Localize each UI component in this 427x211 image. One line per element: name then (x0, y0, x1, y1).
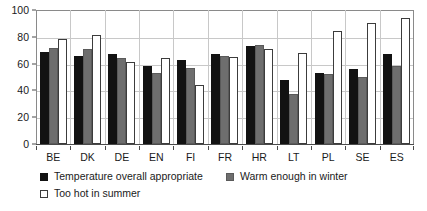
bar-group-en (139, 10, 173, 144)
bar-pl-series-0 (315, 73, 324, 144)
legend: Temperature overall appropriate Warm eno… (36, 168, 416, 202)
bar-pl-series-1 (324, 74, 333, 144)
gray-square-swatch-icon (226, 173, 234, 181)
x-tick-mark (36, 146, 37, 150)
bar-es-series-2 (401, 18, 410, 144)
bar-group-es (380, 10, 414, 144)
bar-group-de (105, 10, 139, 144)
bar-group-be (36, 10, 70, 144)
bar-group-fr (208, 10, 242, 144)
bar-hr-series-0 (246, 46, 255, 144)
bar-dk-series-1 (83, 49, 92, 144)
bar-es-series-1 (392, 66, 401, 144)
bar-en-series-0 (143, 66, 152, 144)
legend-item-warm-enough-in-winter: Warm enough in winter (226, 171, 348, 182)
x-tick-label-be: BE (36, 146, 70, 163)
x-tick-mark (242, 146, 243, 150)
bar-se-series-2 (367, 23, 376, 144)
bar-se-series-1 (358, 77, 367, 144)
x-axis-labels: BEDKDEENFIFRHRLTPLSEES (36, 146, 414, 163)
bar-fi-series-2 (195, 85, 204, 144)
x-tick-label-se: SE (345, 146, 379, 163)
bar-group-lt (277, 10, 311, 144)
bar-lt-series-2 (298, 53, 307, 144)
x-tick-label-hr: HR (242, 146, 276, 163)
bar-group-hr (242, 10, 276, 144)
bar-hr-series-1 (255, 45, 264, 144)
x-tick-mark (105, 146, 106, 150)
x-tick-mark (173, 146, 174, 150)
bar-lt-series-0 (280, 80, 289, 144)
bar-fr-series-2 (229, 57, 238, 144)
x-tick-mark (208, 146, 209, 150)
x-tick-label-text: HR (252, 151, 267, 163)
y-tick-label: 60 (17, 58, 29, 69)
x-tick-label-text: FR (218, 151, 232, 163)
x-tick-label-text: PL (322, 151, 335, 163)
x-tick-label-text: DK (80, 151, 95, 163)
x-tick-label-text: FI (186, 151, 195, 163)
bar-chart: 020406080100 BEDKDEENFIFRHRLTPLSEES Temp… (0, 0, 427, 211)
black-square-swatch-icon (40, 173, 48, 181)
legend-label: Temperature overall appropriate (54, 171, 203, 182)
legend-item-too-hot-in-summer: Too hot in summer (40, 188, 226, 199)
x-tick-label-text: LT (288, 151, 299, 163)
x-axis-line (36, 144, 414, 145)
x-tick-mark (277, 146, 278, 150)
x-tick-label-fr: FR (208, 146, 242, 163)
x-tick-label-text: DE (115, 151, 130, 163)
bar-fi-series-1 (186, 68, 195, 144)
bar-groups (36, 10, 414, 144)
legend-row-2: Too hot in summer (36, 185, 416, 202)
bar-group-pl (311, 10, 345, 144)
x-tick-label-es: ES (380, 146, 414, 163)
bar-se-series-0 (349, 69, 358, 144)
bar-fr-series-0 (211, 54, 220, 144)
y-tick-label: 0 (23, 139, 29, 150)
bar-fr-series-1 (220, 56, 229, 144)
x-tick-label-de: DE (105, 146, 139, 163)
x-tick-label-text: SE (355, 151, 369, 163)
y-tick-label: 40 (17, 85, 29, 96)
legend-row-1: Temperature overall appropriate Warm eno… (36, 168, 416, 185)
bar-group-fi (173, 10, 207, 144)
legend-item-temperature-overall-appropriate: Temperature overall appropriate (40, 171, 226, 182)
x-tick-label-pl: PL (311, 146, 345, 163)
bar-dk-series-0 (74, 56, 83, 144)
x-tick-label-fi: FI (173, 146, 207, 163)
bar-fi-series-0 (177, 60, 186, 144)
legend-label: Too hot in summer (54, 188, 140, 199)
x-tick-mark (380, 146, 381, 150)
bar-be-series-0 (40, 52, 49, 144)
legend-label: Warm enough in winter (240, 171, 348, 182)
bar-de-series-2 (126, 62, 135, 144)
y-tick-label: 80 (17, 32, 29, 43)
x-tick-label-text: EN (149, 151, 164, 163)
bar-en-series-2 (161, 58, 170, 144)
x-tick-mark (345, 146, 346, 150)
x-tick-label-text: BE (46, 151, 60, 163)
x-tick-mark (139, 146, 140, 150)
bar-be-series-2 (58, 39, 67, 144)
x-tick-label-dk: DK (70, 146, 104, 163)
bar-group-se (345, 10, 379, 144)
x-tick-label-lt: LT (277, 146, 311, 163)
bar-be-series-1 (49, 48, 58, 144)
bar-lt-series-1 (289, 94, 298, 144)
x-tick-mark (70, 146, 71, 150)
x-tick-mark (311, 146, 312, 150)
bar-es-series-0 (383, 54, 392, 144)
y-tick-label: 100 (11, 5, 29, 16)
bar-en-series-1 (152, 73, 161, 144)
bar-de-series-1 (117, 58, 126, 144)
x-tick-label-text: ES (390, 151, 404, 163)
white-square-swatch-icon (40, 190, 48, 198)
bar-group-dk (70, 10, 104, 144)
bar-pl-series-2 (333, 31, 342, 144)
x-tick-mark (413, 146, 414, 150)
bar-dk-series-2 (92, 35, 101, 144)
x-tick-label-en: EN (139, 146, 173, 163)
y-axis: 020406080100 (0, 10, 34, 145)
bar-hr-series-2 (264, 49, 273, 144)
bar-de-series-0 (108, 54, 117, 144)
